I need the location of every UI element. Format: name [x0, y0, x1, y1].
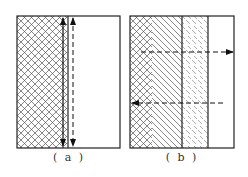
caption-a: ( a ) — [49, 151, 89, 164]
dashed-hatch-region — [182, 16, 208, 148]
figure-canvas — [0, 0, 248, 177]
diagonal-hatch-region — [152, 16, 182, 148]
panel-b — [130, 16, 234, 148]
panel-a — [17, 16, 120, 148]
crosshatch-region — [17, 16, 67, 148]
crosshatch-region — [130, 16, 152, 148]
caption-b: ( b ) — [162, 151, 202, 164]
